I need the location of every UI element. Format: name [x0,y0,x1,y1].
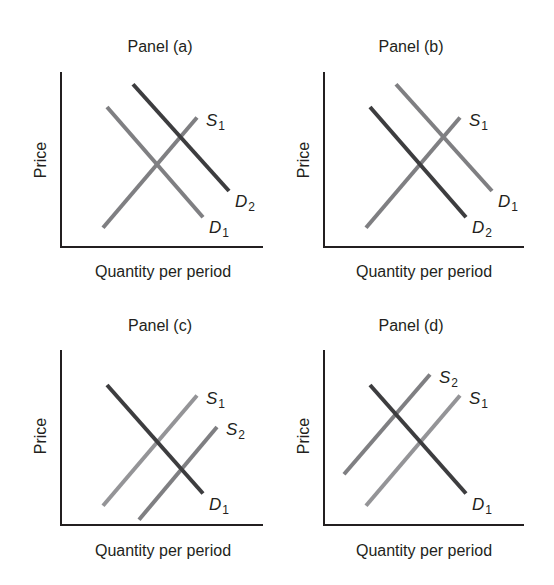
curve-label-d1: D1 [209,495,229,517]
curve-label-d2: D2 [235,192,255,214]
curve-label-subscript: 2 [248,200,255,214]
supply-curve-s2 [344,375,430,475]
y-axis-label: Price [295,142,312,179]
curve-label-letter: D [209,218,221,237]
x-axis-label: Quantity per period [95,263,231,280]
curve-label-s1: S1 [469,389,488,411]
panel-title: Panel (a) [128,38,193,55]
curve-label-d1: D1 [472,495,492,517]
panel-title: Panel (c) [128,317,192,334]
curve-label-letter: S [226,420,238,439]
supply-curve-s1 [103,396,197,506]
curve-label-subscript: 2 [238,428,245,442]
curve-label-letter: D [472,495,484,514]
curve-label-letter: S [206,111,218,130]
curve-label-subscript: 2 [485,226,492,240]
supply-curve-s1 [366,396,460,506]
curve-label-d1: D1 [498,192,518,214]
x-axis-label: Quantity per period [356,263,492,280]
curve-label-letter: S [206,389,218,408]
curves: S1S2D1 [344,368,492,517]
demand-curve-d1 [107,385,203,494]
curve-label-letter: S [469,389,481,408]
curve-label-d1: D1 [209,218,229,240]
curve-label-s2: S2 [439,368,458,390]
panel-a: Panel (a) Price Quantity per period S1D1… [32,38,263,280]
curve-label-subscript: 2 [451,376,458,390]
curve-label-subscript: 1 [511,200,518,214]
demand-curve-d1 [107,107,203,217]
curve-label-d2: D2 [472,218,492,240]
x-axis-label: Quantity per period [95,542,231,559]
supply-curve-s2 [139,427,217,520]
curve-label-s1: S1 [206,111,225,133]
curve-label-subscript: 1 [481,119,488,133]
supply-curve-s1 [103,118,197,228]
panel-title: Panel (d) [379,317,444,334]
panel-title: Panel (b) [379,38,444,55]
curves: S1D1D2 [366,84,518,240]
curve-label-subscript: 1 [222,226,229,240]
curve-label-subscript: 1 [218,397,225,411]
y-axis-label: Price [32,142,49,179]
x-axis-label: Quantity per period [356,542,492,559]
curves: S1D1D2 [103,84,255,240]
curve-label-letter: D [209,495,221,514]
curve-label-letter: S [439,368,451,387]
curve-label-letter: D [235,192,247,211]
y-axis-label: Price [32,418,49,455]
curve-label-letter: S [469,111,481,130]
curves: S1S2D1 [103,385,245,520]
curve-label-subscript: 1 [218,119,225,133]
curve-label-s1: S1 [206,389,225,411]
curve-label-subscript: 1 [222,503,229,517]
curve-label-letter: D [472,218,484,237]
curve-label-s2: S2 [226,420,245,442]
curve-label-s1: S1 [469,111,488,133]
panel-d: Panel (d) Price Quantity per period S1S2… [295,317,524,559]
curve-label-subscript: 1 [485,503,492,517]
demand-curve-d1 [370,385,466,494]
supply-demand-diagram: Panel (a) Price Quantity per period S1D1… [0,0,554,585]
y-axis-label: Price [295,418,312,455]
demand-curve-d2 [370,107,466,217]
supply-curve-s1 [366,118,460,228]
panel-c: Panel (c) Price Quantity per period S1S2… [32,317,263,559]
curve-label-letter: D [498,192,510,211]
panel-b: Panel (b) Price Quantity per period S1D1… [295,38,524,280]
curve-label-subscript: 1 [481,397,488,411]
